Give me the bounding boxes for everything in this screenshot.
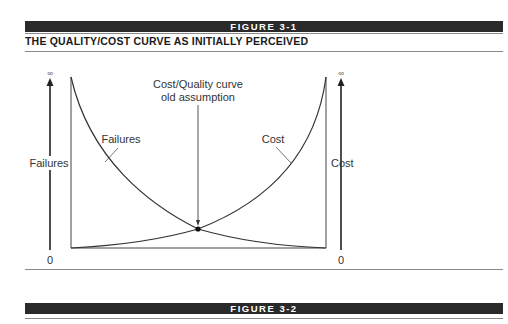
quality-cost-diagram: ∞ Failures 0 Cost/Quality curve old assu…: [0, 0, 508, 324]
annotation-line-2: old assumption: [161, 91, 235, 103]
failures-axis-bottom: 0: [47, 254, 53, 266]
cost-axis-label: Cost: [331, 157, 354, 169]
cost-curve-label: Cost: [262, 133, 285, 145]
annotation-line-1: Cost/Quality curve: [153, 78, 243, 90]
failures-curve-label: Failures: [101, 133, 141, 145]
failures-axis-top: ∞: [47, 69, 53, 78]
banner-2-underline: [25, 318, 503, 319]
failures-axis-label: Failures: [29, 157, 69, 169]
figure-bottom-rule: [25, 269, 503, 270]
cost-axis-top: ∞: [338, 69, 344, 78]
intersection-point: [195, 226, 200, 231]
cost-axis-bottom: 0: [338, 254, 344, 266]
figure-3-2-banner: FIGURE 3-2: [25, 303, 503, 314]
